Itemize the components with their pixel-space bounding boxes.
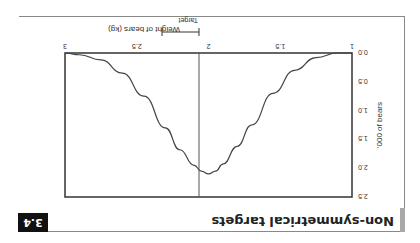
chart: 0.00.51.01.52.02.5 11.522.53 '000 of bea… <box>0 0 420 243</box>
y-tick-label: 2.0 <box>358 164 368 171</box>
y-tick-label: 2.5 <box>358 193 368 200</box>
y-tick-label: 1.5 <box>358 135 368 142</box>
y-axis-label: '000 of bears <box>375 102 384 148</box>
x-tick-label: 2.5 <box>132 43 142 50</box>
y-tick-label: 0.0 <box>358 49 368 56</box>
y-axis-ticks: 0.00.51.01.52.02.5 <box>358 49 368 200</box>
x-axis-ticks: 11.522.53 <box>63 43 354 50</box>
figure-panel: Non-symmetrical targets 3.4 0.00.51.01.5… <box>0 0 420 243</box>
y-tick-label: 0.5 <box>358 78 368 85</box>
target-label: Target <box>178 16 198 24</box>
x-tick-label: 1 <box>350 43 354 50</box>
y-tick-label: 1.0 <box>358 107 368 114</box>
x-tick-label: 1.5 <box>275 43 285 50</box>
x-tick-label: 2 <box>206 43 210 50</box>
x-tick-label: 3 <box>63 43 67 50</box>
plot-frame <box>65 53 352 197</box>
distribution-curve <box>65 53 352 174</box>
x-axis-label: Weight of bears (kg) <box>108 25 180 34</box>
